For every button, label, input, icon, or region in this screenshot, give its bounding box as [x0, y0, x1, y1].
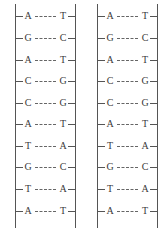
- hydrogen-bond: [117, 103, 138, 104]
- base-right: T: [58, 54, 68, 66]
- base-pair: GC: [15, 32, 76, 44]
- base-right: C: [140, 32, 150, 44]
- hydrogen-bond: [35, 60, 56, 61]
- bond-stub: [150, 211, 158, 212]
- base-right: G: [140, 75, 150, 87]
- base-pair: AT: [15, 10, 76, 22]
- base-right: C: [140, 161, 150, 173]
- base-right: G: [58, 75, 68, 87]
- base-left: C: [105, 75, 115, 87]
- bond-stub: [15, 103, 23, 104]
- hydrogen-bond: [117, 124, 138, 125]
- bond-stub: [97, 146, 105, 147]
- bond-stub: [15, 211, 23, 212]
- base-left: C: [105, 97, 115, 109]
- bond-stub: [97, 16, 105, 17]
- hydrogen-bond: [117, 38, 138, 39]
- base-left: A: [105, 205, 115, 217]
- hydrogen-bond: [35, 189, 56, 190]
- hydrogen-bond: [35, 38, 56, 39]
- base-pair: TA: [15, 183, 76, 195]
- bond-stub: [15, 38, 23, 39]
- bond-stub: [68, 167, 76, 168]
- base-left: T: [23, 183, 33, 195]
- base-left: A: [105, 118, 115, 130]
- hydrogen-bond: [117, 16, 138, 17]
- base-right: C: [58, 32, 68, 44]
- base-right: T: [58, 205, 68, 217]
- base-left: G: [105, 161, 115, 173]
- bond-stub: [15, 124, 23, 125]
- base-pair: GC: [15, 161, 76, 173]
- base-left: T: [105, 140, 115, 152]
- hydrogen-bond: [117, 211, 138, 212]
- base-pair: GC: [97, 161, 158, 173]
- bond-stub: [97, 103, 105, 104]
- base-pair: AT: [15, 54, 76, 66]
- base-right: A: [58, 183, 68, 195]
- bond-stub: [68, 38, 76, 39]
- bond-stub: [68, 60, 76, 61]
- bond-stub: [97, 167, 105, 168]
- bond-stub: [15, 167, 23, 168]
- base-right: A: [140, 140, 150, 152]
- hydrogen-bond: [35, 81, 56, 82]
- bond-stub: [150, 16, 158, 17]
- bond-stub: [15, 16, 23, 17]
- bond-stub: [68, 16, 76, 17]
- bond-stub: [150, 124, 158, 125]
- bond-stub: [68, 211, 76, 212]
- dna-molecule-right: ATGCATCGCGATTAGCTAAT: [97, 4, 157, 228]
- base-right: A: [58, 140, 68, 152]
- hydrogen-bond: [35, 167, 56, 168]
- base-right: T: [58, 118, 68, 130]
- bond-stub: [97, 189, 105, 190]
- base-left: C: [23, 97, 33, 109]
- base-pair: AT: [97, 10, 158, 22]
- bond-stub: [97, 211, 105, 212]
- bond-stub: [68, 124, 76, 125]
- bond-stub: [150, 60, 158, 61]
- bond-stub: [15, 189, 23, 190]
- bond-stub: [68, 81, 76, 82]
- bond-stub: [15, 81, 23, 82]
- bond-stub: [150, 38, 158, 39]
- bond-stub: [68, 146, 76, 147]
- base-right: T: [140, 10, 150, 22]
- base-left: G: [23, 161, 33, 173]
- base-pair: GC: [97, 32, 158, 44]
- bond-stub: [97, 38, 105, 39]
- bond-stub: [97, 81, 105, 82]
- bond-stub: [150, 189, 158, 190]
- base-pair: TA: [15, 140, 76, 152]
- hydrogen-bond: [35, 124, 56, 125]
- bond-stub: [68, 189, 76, 190]
- base-right: G: [58, 97, 68, 109]
- bond-stub: [150, 103, 158, 104]
- base-left: T: [105, 183, 115, 195]
- base-left: A: [105, 10, 115, 22]
- base-pair: CG: [15, 97, 76, 109]
- base-left: A: [105, 54, 115, 66]
- base-right: C: [58, 161, 68, 173]
- base-pair: CG: [15, 75, 76, 87]
- base-right: G: [140, 97, 150, 109]
- bond-stub: [68, 103, 76, 104]
- bond-stub: [150, 167, 158, 168]
- hydrogen-bond: [117, 146, 138, 147]
- hydrogen-bond: [117, 167, 138, 168]
- hydrogen-bond: [117, 60, 138, 61]
- bond-stub: [97, 124, 105, 125]
- base-right: T: [140, 118, 150, 130]
- base-left: A: [23, 54, 33, 66]
- base-pair: AT: [15, 118, 76, 130]
- base-pair: TA: [97, 140, 158, 152]
- bond-stub: [15, 146, 23, 147]
- base-right: T: [58, 10, 68, 22]
- base-right: T: [140, 205, 150, 217]
- bond-stub: [150, 146, 158, 147]
- hydrogen-bond: [35, 211, 56, 212]
- base-left: A: [23, 118, 33, 130]
- base-pair: CG: [97, 75, 158, 87]
- hydrogen-bond: [117, 81, 138, 82]
